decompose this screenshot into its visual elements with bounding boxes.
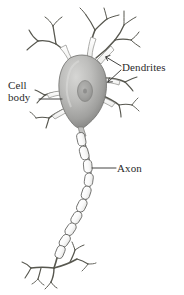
myelin-segment: [84, 172, 94, 187]
neuron-diagram: Cell body Dendrites Axon: [0, 0, 184, 295]
nucleolus: [83, 88, 87, 93]
nucleus: [78, 81, 93, 102]
label-cell-body: Cell body: [8, 80, 30, 103]
myelin-segment: [78, 145, 90, 161]
dendrite-branch-right-lower: [101, 95, 139, 117]
dendrite-branch-top-right: [96, 11, 140, 58]
leader-line-dendrites-upper: [106, 57, 121, 66]
label-cell-body-line1: Cell: [8, 80, 30, 92]
myelinated-axon: [54, 127, 94, 260]
label-axon: Axon: [117, 163, 142, 175]
label-dendrites: Dendrites: [122, 62, 166, 74]
myelin-segment: [83, 159, 93, 173]
label-cell-body-line2: body: [8, 92, 30, 104]
myelin-segment: [80, 185, 92, 200]
neuron-illustration: [0, 0, 184, 295]
